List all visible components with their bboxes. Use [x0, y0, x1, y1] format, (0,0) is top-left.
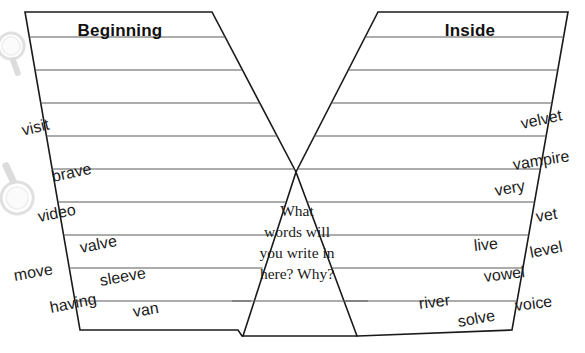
v-diagram-worksheet: Beginning Inside What: [0, 0, 585, 353]
right-arm-group: Inside: [290, 12, 585, 336]
word-bank-word[interactable]: river: [418, 291, 451, 313]
word-bank-word[interactable]: vet: [535, 205, 559, 226]
center-prompt-line: you write in: [260, 244, 335, 261]
right-arm-outline: [296, 12, 568, 336]
right-arm-label: Inside: [445, 21, 495, 40]
left-arm-label: Beginning: [78, 21, 163, 40]
center-prompt-line: here? Why?: [260, 265, 334, 282]
left-arm-group: Beginning: [0, 12, 300, 336]
word-bank-word[interactable]: live: [473, 235, 499, 255]
center-prompt-line: words will: [264, 223, 330, 240]
center-prompt-line: What: [280, 202, 314, 219]
